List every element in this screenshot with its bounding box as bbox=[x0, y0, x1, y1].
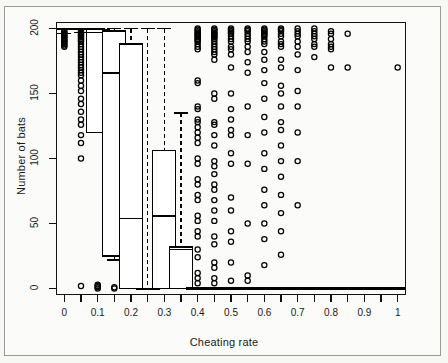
y-tick-label: 0 bbox=[29, 272, 40, 302]
figure-page: 00.10.20.30.40.50.60.70.80.91 0501001502… bbox=[0, 0, 448, 363]
y-tick-label: 200 bbox=[29, 12, 40, 42]
y-tick-label: 50 bbox=[29, 207, 40, 237]
y-axis-label: Number of bats bbox=[15, 81, 27, 231]
y-tick-label: 100 bbox=[29, 142, 40, 172]
x-axis-label: Cheating rate bbox=[0, 336, 448, 348]
x-tick-label: 1 bbox=[378, 307, 418, 318]
y-tick-label: 150 bbox=[29, 77, 40, 107]
plot-frame bbox=[56, 22, 406, 295]
